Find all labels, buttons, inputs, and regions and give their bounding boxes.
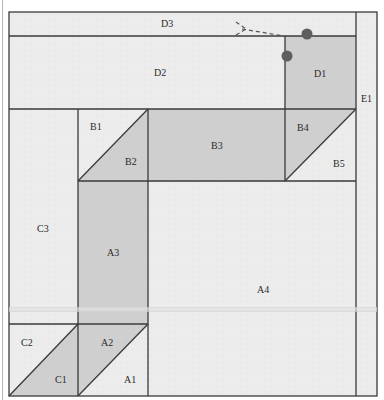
label-a3: A3 bbox=[107, 247, 119, 258]
label-b2: B2 bbox=[125, 156, 137, 167]
marker-dot-top bbox=[302, 29, 313, 40]
label-a2: A2 bbox=[101, 337, 113, 348]
label-b5: B5 bbox=[333, 158, 345, 169]
label-c2: C2 bbox=[21, 337, 33, 348]
label-a4: A4 bbox=[257, 284, 269, 295]
label-c3: C3 bbox=[37, 223, 49, 234]
label-d2: D2 bbox=[154, 67, 166, 78]
label-b4: B4 bbox=[297, 122, 309, 133]
label-d3: D3 bbox=[161, 18, 173, 29]
quilt-diagram: D3 D2 D1 E1 B1 B2 B3 B4 B5 C3 A3 A4 C2 A… bbox=[0, 0, 384, 400]
label-a1: A1 bbox=[124, 374, 136, 385]
scan-band bbox=[9, 307, 377, 312]
label-b1: B1 bbox=[90, 121, 102, 132]
label-d1: D1 bbox=[314, 68, 326, 79]
label-e1: E1 bbox=[361, 93, 372, 104]
marker-dot-left bbox=[282, 51, 293, 62]
label-b3: B3 bbox=[211, 140, 223, 151]
label-c1: C1 bbox=[55, 374, 67, 385]
